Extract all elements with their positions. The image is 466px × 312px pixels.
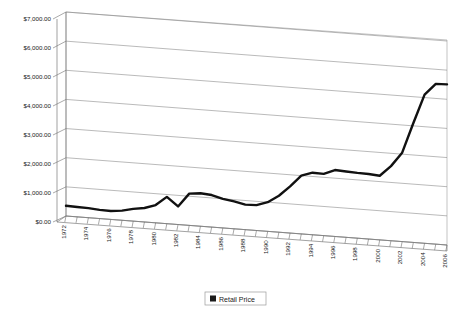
x-tick-1986 <box>222 228 223 234</box>
legend-label-retail-price: Retail Price <box>219 296 255 303</box>
gridline-500000 <box>66 70 447 99</box>
y-tick-5 <box>53 70 66 77</box>
x-tick-2004 <box>423 243 424 249</box>
x-axis-label-1972: 1972 <box>60 224 67 238</box>
y-tick-0 <box>53 216 66 222</box>
x-tick-2003 <box>412 242 413 248</box>
x-tick-1975 <box>98 219 99 225</box>
floor-front-edge <box>57 222 447 251</box>
x-axis-label-1994: 1994 <box>307 243 314 257</box>
series-line-retail-price <box>66 84 447 211</box>
y-axis-label-4: $4,000.00 <box>23 102 51 109</box>
x-tick-1993 <box>300 234 301 240</box>
x-tick-2005 <box>435 244 436 250</box>
y-axis-label-6: $6,000.00 <box>23 44 51 51</box>
x-axis-label-1974: 1974 <box>82 226 89 240</box>
x-axis-label-1990: 1990 <box>262 240 269 254</box>
x-tick-1991 <box>278 232 279 238</box>
legend-swatch-retail-price <box>210 296 216 302</box>
x-axis-label-1998: 1998 <box>351 247 358 261</box>
x-tick-1978 <box>132 221 133 227</box>
x-axis-label-1988: 1988 <box>239 238 246 252</box>
x-tick-1997 <box>345 237 346 243</box>
x-axis-label-1996: 1996 <box>329 245 336 259</box>
x-tick-1983 <box>188 225 189 231</box>
x-tick-1980 <box>154 223 155 229</box>
x-axis-label-1992: 1992 <box>284 242 291 256</box>
retail-price-chart: $0.00$1,000.00$2,000.00$3,000.00$4,000.0… <box>0 0 466 312</box>
x-tick-1987 <box>233 229 234 235</box>
x-tick-1985 <box>210 227 211 233</box>
x-tick-1974 <box>87 218 88 224</box>
x-tick-1981 <box>166 224 167 230</box>
y-axis-label-5: $5,000.00 <box>23 73 51 80</box>
x-axis-label-1980: 1980 <box>150 231 157 245</box>
y-tick-3 <box>53 129 66 135</box>
y-axis-ticks-group: $0.00$1,000.00$2,000.00$3,000.00$4,000.0… <box>23 12 66 225</box>
y-axis-label-2: $2,000.00 <box>23 160 51 167</box>
x-axis-ticks-group: 1972197419761978198019821984198619881990… <box>60 216 448 268</box>
x-tick-1996 <box>334 236 335 242</box>
gridline-700000 <box>66 12 447 41</box>
x-tick-1988 <box>244 230 245 236</box>
x-axis-label-1982: 1982 <box>172 233 179 247</box>
y-axis-label-0: $0.00 <box>36 218 52 225</box>
y-axis-label-7: $7,000.00 <box>23 15 51 22</box>
y-tick-4 <box>53 99 66 106</box>
x-tick-2002 <box>401 242 402 248</box>
x-axis-label-2004: 2004 <box>419 252 426 266</box>
gridline-200000 <box>66 158 447 187</box>
gridline-600000 <box>66 41 447 70</box>
x-tick-1979 <box>143 222 144 228</box>
x-tick-1973 <box>76 217 77 223</box>
x-tick-1984 <box>199 226 200 232</box>
x-axis-label-1978: 1978 <box>127 230 134 244</box>
x-axis-label-1986: 1986 <box>217 236 224 250</box>
y-tick-2 <box>53 158 66 164</box>
axes-group <box>57 12 447 251</box>
x-tick-1990 <box>267 231 268 237</box>
gridline-400000 <box>66 99 447 128</box>
x-axis-label-1976: 1976 <box>105 228 112 242</box>
x-tick-1994 <box>311 235 312 241</box>
x-tick-1982 <box>177 225 178 231</box>
x-tick-2000 <box>379 240 380 246</box>
x-tick-1989 <box>255 231 256 237</box>
y-tick-1 <box>53 187 66 193</box>
gridline-300000 <box>66 129 447 158</box>
x-axis-label-2000: 2000 <box>374 248 381 262</box>
data-series-group <box>66 84 447 211</box>
chart-canvas: $0.00$1,000.00$2,000.00$3,000.00$4,000.0… <box>0 0 466 312</box>
x-tick-1976 <box>110 219 111 225</box>
x-axis-label-2002: 2002 <box>396 250 403 264</box>
x-tick-1977 <box>121 220 122 226</box>
y-axis-label-3: $3,000.00 <box>23 131 51 138</box>
x-axis-label-2006: 2006 <box>441 253 448 267</box>
x-tick-1998 <box>356 238 357 244</box>
x-tick-1992 <box>289 233 290 239</box>
x-tick-1999 <box>367 239 368 245</box>
chart-legend: Retail Price <box>205 292 266 305</box>
x-tick-1995 <box>323 236 324 242</box>
y-axis-label-1: $1,000.00 <box>23 189 51 196</box>
x-tick-2001 <box>390 241 391 247</box>
x-axis-label-1984: 1984 <box>194 235 201 249</box>
y-tick-7 <box>53 12 66 19</box>
y-tick-6 <box>53 41 66 48</box>
